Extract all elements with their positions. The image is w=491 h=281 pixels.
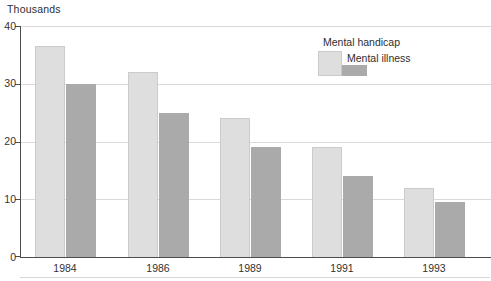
y-axis-label-20: 20 bbox=[0, 136, 16, 147]
bar-mental-illness-1989 bbox=[251, 147, 281, 257]
legend-label-mental-illness: Mental illness bbox=[347, 52, 411, 64]
bar-mental-handicap-1989 bbox=[220, 118, 250, 257]
y-axis-unit-label: Thousands bbox=[7, 3, 61, 15]
bar-mental-illness-1986 bbox=[159, 113, 189, 257]
x-axis-label-1991: 1991 bbox=[320, 262, 364, 274]
x-axis-label-1984: 1984 bbox=[43, 262, 87, 274]
legend-label-mental-handicap: Mental handicap bbox=[323, 36, 400, 48]
bottom-rule bbox=[20, 277, 490, 278]
y-axis-label-0: 0 bbox=[0, 252, 16, 263]
y-axis-label-10: 10 bbox=[0, 194, 16, 205]
legend-swatch-mental-handicap bbox=[318, 51, 342, 76]
plot-area bbox=[20, 26, 491, 258]
bar-mental-illness-1991 bbox=[343, 176, 373, 257]
bar-chart: Thousands 010203040 19841986198919911993… bbox=[0, 0, 491, 281]
bar-mental-illness-1984 bbox=[66, 84, 96, 257]
bar-mental-handicap-1991 bbox=[312, 147, 342, 257]
bar-mental-handicap-1993 bbox=[404, 188, 434, 257]
gridline-40 bbox=[21, 26, 491, 27]
x-axis-label-1986: 1986 bbox=[136, 262, 180, 274]
bar-mental-handicap-1986 bbox=[128, 72, 158, 257]
x-axis-label-1989: 1989 bbox=[228, 262, 272, 274]
x-axis-label-1993: 1993 bbox=[412, 262, 456, 274]
bar-mental-handicap-1984 bbox=[35, 46, 65, 257]
y-axis-label-30: 30 bbox=[0, 78, 16, 89]
bar-mental-illness-1993 bbox=[435, 202, 465, 257]
legend-swatch-mental-illness bbox=[342, 65, 367, 76]
y-axis-label-40: 40 bbox=[0, 21, 16, 32]
